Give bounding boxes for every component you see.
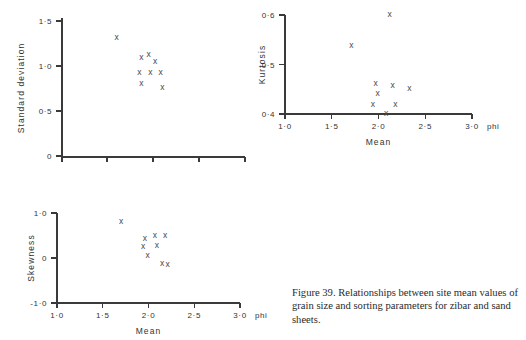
data-point: x [390,80,395,90]
data-point: x [119,216,124,226]
data-point: x [146,49,151,59]
data-point: x [137,67,142,77]
x-tick-label: 2·0 [372,122,385,131]
data-point: x [139,52,144,62]
data-point: x [158,67,163,77]
data-point: x [384,108,389,118]
data-point: x [139,78,144,88]
data-point: x [374,78,379,88]
y-tick-label: 1·5 [39,17,52,26]
x-axis-unit-label: phi [255,311,267,320]
y-ticks-skewness [51,213,57,303]
x-tick-label: 2·5 [188,311,201,320]
x-axis-unit-label: phi [487,122,499,131]
data-point: x [155,240,160,250]
y-tick-label: 0·6 [262,11,275,20]
data-point: x [160,82,165,92]
data-point-group-skewness: x x x x x x x x x [119,216,171,269]
x-tick-labels-kurtosis: 1·0 1·5 2·0 2·5 3·0 [278,122,478,131]
x-ticks-skewness [57,303,240,308]
scatter-plot-standard-deviation: 1·5 1·0 0·5 0 Standard deviation x x x x… [0,0,263,180]
data-point: x [145,250,150,260]
y-tick-label: 0 [42,254,47,263]
x-tick-label: 3·0 [233,311,246,320]
data-point: x [160,258,165,268]
data-point: x [388,9,393,19]
x-tick-label: 1·0 [50,311,63,320]
data-point-group-standard-deviation: x x x x x x x x x [114,32,165,92]
x-axis-title: Mean [136,326,162,336]
data-point: x [407,83,412,93]
x-tick-label: 3·0 [465,122,478,131]
y-tick-label: 0 [47,152,52,161]
y-tick-label: 0·4 [262,110,275,119]
axes-standard-deviation [62,18,245,157]
y-axis-title: Skewness [26,234,36,282]
y-axis-title: Standard deviation [16,43,26,134]
data-point: x [375,88,380,98]
chart-panel-standard-deviation: 1·5 1·0 0·5 0 Standard deviation x x x x… [0,0,263,180]
y-tick-label: 1·0 [34,209,47,218]
x-ticks-standard-deviation [62,157,245,162]
x-tick-label: 2·5 [419,122,432,131]
x-axis-title: Mean [366,137,392,147]
x-ticks-kurtosis [285,114,472,119]
chart-panel-kurtosis: 0·6 0·5 0·4 1·0 1·5 2·0 2·5 3·0 phi Mean… [255,0,526,150]
figure-caption: Figure 39. Relationships between site me… [292,286,524,326]
x-tick-label: 1·5 [325,122,338,131]
data-point: x [166,259,171,269]
x-tick-labels-skewness: 1·0 1·5 2·0 2·5 3·0 [50,311,246,320]
x-tick-label: 1·5 [96,311,109,320]
y-tick-label: 0·5 [39,107,52,116]
axes-kurtosis [285,15,472,114]
x-tick-label: 2·0 [142,311,155,320]
data-point: x [163,230,168,240]
y-tick-label: -1·0 [30,299,47,308]
y-tick-label: 1·0 [39,62,52,71]
data-point: x [371,99,376,109]
chart-panel-skewness: 1·0 0 -1·0 1·0 1·5 2·0 2·5 3·0 phi Mean … [20,190,270,340]
data-point: x [114,32,119,42]
scatter-plot-skewness: 1·0 0 -1·0 1·0 1·5 2·0 2·5 3·0 phi Mean … [20,190,270,340]
data-point: x [153,56,158,66]
y-ticks-standard-deviation [56,21,62,156]
data-point: x [148,67,153,77]
data-point: x [153,230,158,240]
figure-39: 1·5 1·0 0·5 0 Standard deviation x x x x… [0,0,526,340]
scatter-plot-kurtosis: 0·6 0·5 0·4 1·0 1·5 2·0 2·5 3·0 phi Mean… [255,0,526,150]
data-point: x [349,40,354,50]
data-point-group-kurtosis: x x x x x x x x x [349,9,412,118]
y-axis-title: Kurtosis [257,45,267,85]
x-tick-label: 1·0 [278,122,291,131]
y-ticks-kurtosis [279,15,285,114]
y-tick-labels-standard-deviation: 1·5 1·0 0·5 0 [39,17,52,161]
data-point: x [393,99,398,109]
